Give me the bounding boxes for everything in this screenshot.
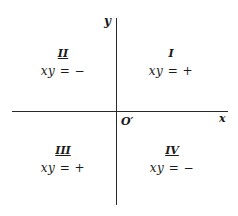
quadrant-numeral: III — [28, 145, 98, 157]
quadrant-equation: xy = − — [137, 161, 207, 175]
quadrant-i: I xy = + — [136, 48, 206, 78]
quadrant-ii: II xy = − — [28, 48, 98, 78]
quadrant-equation: xy = + — [136, 64, 206, 78]
quadrant-iv: IV xy = − — [137, 145, 207, 175]
quadrant-equation: xy = − — [28, 64, 98, 78]
quadrant-numeral: II — [28, 48, 98, 60]
x-axis-label: x — [219, 113, 226, 125]
x-axis — [12, 111, 228, 112]
origin-label: O′ — [121, 116, 133, 128]
quadrant-equation: xy = + — [28, 161, 98, 175]
quadrant-numeral: IV — [137, 145, 207, 157]
y-axis-label: y — [104, 15, 111, 27]
quadrant-iii: III xy = + — [28, 145, 98, 175]
quadrant-numeral: I — [136, 48, 206, 60]
